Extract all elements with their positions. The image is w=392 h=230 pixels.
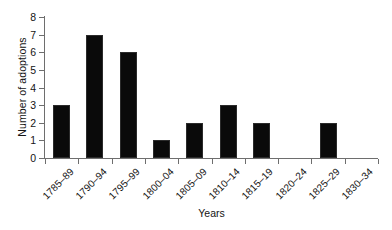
x-axis-tick — [345, 159, 346, 164]
x-axis-tick — [245, 159, 246, 164]
x-axis-tick — [212, 159, 213, 164]
bar — [186, 123, 203, 158]
y-axis-tick-label-wrap: 8 — [0, 12, 36, 22]
x-axis-tick — [378, 159, 379, 164]
bar — [120, 52, 137, 158]
y-axis-tick-label-wrap: 2 — [0, 118, 36, 128]
y-axis-tick-label-wrap: 1 — [0, 135, 36, 145]
y-axis-tick-label: 2 — [2, 118, 36, 128]
y-axis-tick-label-wrap: 5 — [0, 65, 36, 75]
bar — [53, 105, 70, 158]
x-axis-tick — [178, 159, 179, 164]
x-axis-line — [44, 158, 378, 159]
y-axis-tick-label-wrap: 4 — [0, 83, 36, 93]
x-axis-tick — [311, 159, 312, 164]
x-axis-tick — [278, 159, 279, 164]
y-axis-tick-label-wrap: 3 — [0, 100, 36, 110]
y-axis-tick-label: 3 — [2, 100, 36, 110]
bar-chart-figure: Number of adoptions 012345678 1785–89179… — [0, 0, 392, 230]
y-axis-tick-label-wrap: 0 — [0, 153, 36, 163]
x-axis-tick — [145, 159, 146, 164]
y-axis-tick-label: 0 — [2, 153, 36, 163]
x-axis-title: Years — [45, 207, 378, 219]
x-axis-tick — [78, 159, 79, 164]
bar — [153, 140, 170, 158]
y-axis-tick-label: 4 — [2, 83, 36, 93]
y-axis-tick-label-wrap: 6 — [0, 47, 36, 57]
y-axis-tick-label: 7 — [2, 30, 36, 40]
bar — [220, 105, 237, 158]
y-axis-tick-label: 6 — [2, 47, 36, 57]
x-axis-tick — [112, 159, 113, 164]
y-axis-tick-label: 1 — [2, 135, 36, 145]
y-axis-tick-label-wrap: 7 — [0, 30, 36, 40]
y-axis-tick-label: 8 — [2, 12, 36, 22]
x-axis-tick — [45, 159, 46, 164]
bar — [86, 35, 103, 158]
bar — [253, 123, 270, 158]
plot-area — [45, 17, 378, 158]
bar — [320, 123, 337, 158]
y-axis-tick-label: 5 — [2, 65, 36, 75]
